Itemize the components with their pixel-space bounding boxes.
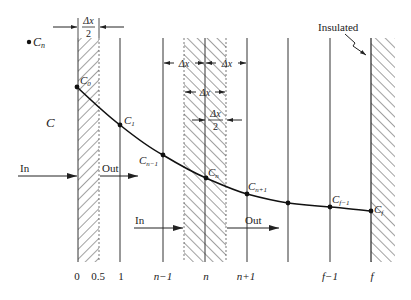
svg-text:0.5: 0.5 xyxy=(91,270,105,282)
svg-text:0: 0 xyxy=(74,270,80,282)
node-label-cn-plus-1: Cn+1 xyxy=(248,180,267,194)
axis-ticks: 0 0.5 1 n−1 n n+1 f−1 f xyxy=(74,270,375,282)
dx-right-label: Δx xyxy=(221,58,233,69)
flow-out-mid-label: Out xyxy=(245,214,262,226)
node-label-c1: C1 xyxy=(124,114,135,128)
svg-text:n−1: n−1 xyxy=(154,270,172,282)
svg-text:n: n xyxy=(203,270,209,282)
legend-point-icon xyxy=(27,40,31,44)
concentration-label: C xyxy=(46,115,55,130)
insulated-pointer-arrow xyxy=(345,34,366,55)
diffusion-discretization-diagram: Cn C C0 C1 Cn−1 Cn Cn+1 Cf−1 Cf Δx 2 Δx … xyxy=(0,0,411,300)
svg-text:2: 2 xyxy=(86,28,91,39)
svg-text:Δx: Δx xyxy=(82,15,94,26)
half-dx-mid-den: 2 xyxy=(213,121,218,132)
svg-text:n+1: n+1 xyxy=(237,270,255,282)
insulated-label: Insulated xyxy=(318,21,359,33)
dx-mid-label: Δx xyxy=(199,87,211,98)
flow-in-left-label: In xyxy=(20,162,30,174)
dimension-half-dx-left: Δx 2 xyxy=(53,15,124,39)
insulated-wall-hatch xyxy=(371,38,395,262)
flow-out-left-label: Out xyxy=(102,162,119,174)
svg-text:f−1: f−1 xyxy=(322,270,338,282)
flow-in-mid-label: In xyxy=(135,214,145,226)
node-label-cn-minus-1: Cn−1 xyxy=(139,154,158,168)
half-dx-mid-num: Δx xyxy=(209,108,221,119)
svg-text:1: 1 xyxy=(118,270,124,282)
legend-point-label: Cn xyxy=(33,35,45,50)
svg-text:f: f xyxy=(370,270,375,282)
left-boundary-hatch xyxy=(78,38,99,262)
node-label-cf-minus-1: Cf−1 xyxy=(332,193,350,207)
dx-left-label: Δx xyxy=(178,58,190,69)
